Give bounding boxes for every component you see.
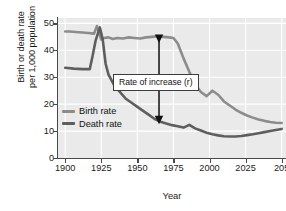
y-tick-10: 10 (20, 126, 54, 136)
x-axis-tick-labels: 190019251950197520002025205 (0, 163, 286, 177)
y-axis-line (57, 17, 58, 159)
x-tick-2000: 2000 (199, 163, 219, 173)
legend-label-birth-rate: Birth rate (79, 105, 116, 118)
chart-legend: Birth rate Death rate (62, 105, 122, 130)
x-axis-label: Year (58, 190, 286, 201)
y-tickmark-10 (53, 131, 57, 132)
x-tick-1975: 1975 (163, 163, 183, 173)
legend-swatch-birth-rate (62, 110, 75, 113)
y-axis-tick-labels: 01020304050 (16, 0, 54, 211)
x-tick-1900: 1900 (55, 163, 75, 173)
y-tickmark-0 (53, 158, 57, 159)
y-tick-40: 40 (20, 45, 54, 55)
legend-swatch-death-rate (62, 122, 75, 125)
y-tickmark-30 (53, 77, 57, 78)
y-tickmark-50 (53, 23, 57, 24)
x-tick-1950: 1950 (127, 163, 147, 173)
y-tick-20: 20 (20, 99, 54, 109)
legend-label-death-rate: Death rate (79, 118, 122, 131)
y-tickmark-40 (53, 50, 57, 51)
y-tick-30: 30 (20, 72, 54, 82)
x-axis-line (57, 158, 286, 159)
legend-item-death-rate: Death rate (62, 118, 122, 131)
x-tick-205: 205 (274, 163, 286, 173)
y-tick-50: 50 (20, 18, 54, 28)
birth-death-rate-chart: Birth or death rate per 1,000 population… (0, 0, 286, 211)
legend-item-birth-rate: Birth rate (62, 105, 122, 118)
rate-of-increase-label: Rate of increase (r) (113, 74, 199, 91)
y-tickmark-20 (53, 104, 57, 105)
x-tick-1925: 1925 (91, 163, 111, 173)
x-tick-2025: 2025 (235, 163, 255, 173)
y-tick-0: 0 (20, 153, 54, 163)
